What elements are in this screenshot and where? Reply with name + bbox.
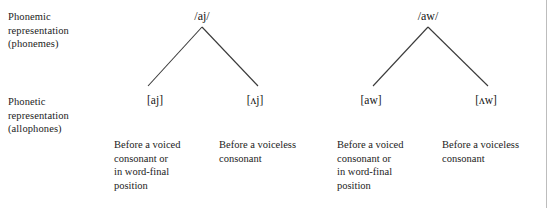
environment-aj-voiceless: Before a voiceless consonant [219, 138, 323, 165]
allophone-node-aj-voiceless: [ʌj] [226, 93, 284, 107]
right-edge-rule [546, 0, 547, 208]
allophone-node-aj-voiced: [aj] [126, 93, 184, 107]
phoneme-node-aj: /aj/ [172, 9, 232, 23]
phonetic-row-label: Phonetic representation (allophones) [8, 95, 112, 136]
phoneme-allophone-diagram: Phonemic representation (phonemes) Phone… [0, 0, 552, 208]
environment-aw-voiced: Before a voiced consonant or in word-fin… [337, 138, 437, 192]
allophone-node-aw-voiced: [aw] [342, 93, 400, 107]
environment-aj-voiced: Before a voiced consonant or in word-fin… [114, 138, 214, 192]
branch-aw-to-aw-voiceless [428, 27, 488, 86]
branch-aj-to-aj-voiced [148, 27, 202, 86]
phonemic-row-label: Phonemic representation (phonemes) [8, 10, 112, 51]
branch-aj-to-aj-voiceless [202, 27, 258, 86]
allophone-node-aw-voiceless: [ʌw] [457, 93, 515, 107]
branch-aw-to-aw-voiced [373, 27, 428, 86]
environment-aw-voiceless: Before a voiceless consonant [442, 138, 546, 165]
phoneme-node-aw: /aw/ [398, 9, 458, 23]
